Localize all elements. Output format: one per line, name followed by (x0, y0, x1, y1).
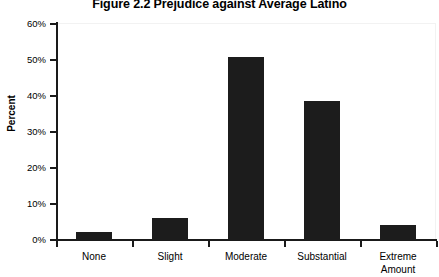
chart-title: Figure 2.2 Prejudice against Average Lat… (0, 0, 439, 11)
y-tick-20 (50, 167, 56, 169)
chart-figure: Figure 2.2 Prejudice against Average Lat… (0, 0, 439, 277)
x-tick-2 (208, 241, 210, 247)
y-tick-10 (50, 203, 56, 205)
bar-moderate (228, 57, 264, 240)
y-axis-line (56, 22, 58, 241)
y-tick-label-30: 30% (0, 127, 46, 137)
y-axis-title: Percent (6, 79, 17, 149)
y-tick-30 (50, 131, 56, 133)
y-tick-label-0: 0% (0, 235, 46, 245)
y-tick-label-20: 20% (0, 163, 46, 173)
x-tick-0 (56, 241, 58, 247)
bar-slight (152, 218, 188, 240)
bar-substantial (304, 101, 340, 240)
x-tick-1 (132, 241, 134, 247)
x-label-extreme-line2: Amount (381, 264, 415, 275)
x-label-extreme: Extreme Amount (353, 251, 439, 276)
x-label-extreme-line1: Extreme (379, 251, 416, 262)
y-tick-50 (50, 59, 56, 61)
bar-extreme (380, 225, 416, 240)
y-tick-label-50: 50% (0, 55, 46, 65)
y-tick-label-60: 60% (0, 19, 46, 29)
y-tick-60 (50, 23, 56, 25)
bar-none (76, 232, 112, 240)
y-tick-40 (50, 95, 56, 97)
x-tick-3 (284, 241, 286, 247)
y-tick-label-40: 40% (0, 91, 46, 101)
y-tick-label-10: 10% (0, 199, 46, 209)
x-tick-4 (360, 241, 362, 247)
x-tick-5 (436, 241, 438, 247)
